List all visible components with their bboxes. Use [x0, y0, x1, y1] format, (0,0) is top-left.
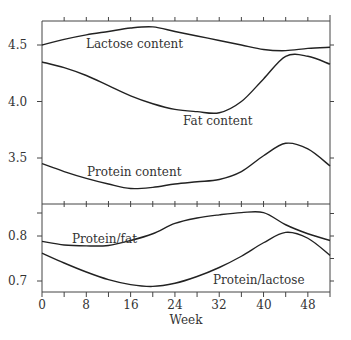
upper-panel-frame [42, 15, 330, 292]
xtick-48: 48 [300, 298, 315, 312]
xtick-24: 24 [167, 298, 183, 312]
label-lactose-content: Lactose content [86, 37, 183, 51]
label-protein-content: Protein content [87, 165, 182, 179]
ytick-0-8: 0.8 [8, 229, 27, 243]
label-fat-content: Fat content [183, 114, 253, 128]
ytick-3-5: 3.5 [8, 151, 27, 165]
fat-content-line [42, 54, 330, 113]
ytick-4-5: 4.5 [8, 38, 27, 52]
ytick-4-0: 4.0 [8, 95, 27, 109]
ytick-0-7: 0.7 [8, 274, 27, 288]
bottom-x-ticks [42, 292, 330, 297]
top-x-ticks [64, 17, 308, 21]
xtick-0: 0 [38, 298, 46, 312]
xtick-32: 32 [211, 298, 226, 312]
label-protein-lactose: Protein/lactose [213, 273, 305, 287]
label-protein-fat: Protein/fat [72, 232, 137, 246]
milk-composition-chart: 4.5 4.0 3.5 0.8 0.7 0 8 16 24 32 40 48 W… [0, 0, 351, 340]
xtick-40: 40 [256, 298, 271, 312]
xtick-16: 16 [123, 298, 138, 312]
xtick-8: 8 [82, 298, 90, 312]
x-axis-label: Week [170, 313, 204, 327]
protein-content-line [42, 143, 330, 189]
